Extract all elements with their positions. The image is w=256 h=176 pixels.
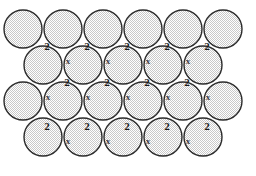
glide-reflection-label: x (66, 137, 71, 146)
glide-reflection-label: x (106, 57, 111, 66)
rotation-center-label: 2 (84, 121, 90, 132)
rotation-center-label: 2 (124, 41, 130, 52)
glide-reflection-label: x (106, 137, 111, 146)
glide-reflection-label: x (166, 93, 171, 102)
lattice-circle (4, 82, 42, 120)
glide-reflection-label: x (86, 93, 91, 102)
circle-lattice-svg (0, 0, 256, 176)
glide-reflection-label: x (186, 137, 191, 146)
lattice-circle (24, 46, 62, 84)
lattice-circle (24, 118, 62, 156)
glide-reflection-label: x (206, 93, 211, 102)
rotation-center-label: 2 (84, 41, 90, 52)
glide-reflection-label: x (146, 57, 151, 66)
glide-reflection-label: x (146, 137, 151, 146)
glide-reflection-label: x (186, 57, 191, 66)
glide-reflection-label: x (66, 57, 71, 66)
lattice-circle (4, 10, 42, 48)
glide-reflection-label: x (126, 93, 131, 102)
rotation-center-label: 2 (104, 77, 110, 88)
rotation-center-label: 2 (64, 77, 70, 88)
rotation-center-label: 2 (124, 121, 130, 132)
glide-reflection-label: x (46, 93, 51, 102)
rotation-center-label: 2 (164, 121, 170, 132)
rotation-center-label: 2 (164, 41, 170, 52)
circle-layer (4, 10, 242, 156)
rotation-center-label: 2 (184, 77, 190, 88)
rotation-center-label: 2 (44, 41, 50, 52)
rotation-center-label: 2 (204, 121, 210, 132)
rotation-center-label: 2 (44, 121, 50, 132)
rotation-center-label: 2 (144, 77, 150, 88)
rotation-center-label: 2 (204, 41, 210, 52)
diagram-canvas: 22222222222222xxxxxxxxxxxxx (0, 0, 256, 176)
